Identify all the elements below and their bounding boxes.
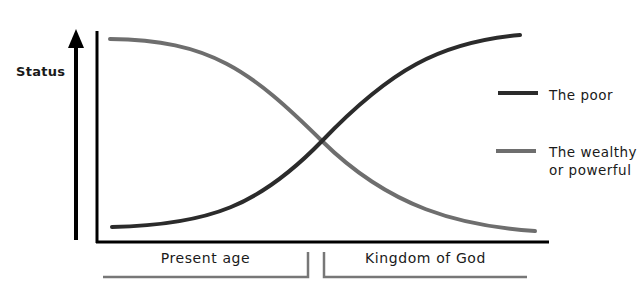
y-axis-label: Status	[16, 64, 65, 79]
period-label-present-age: Present age	[103, 250, 308, 266]
legend-label-wealthy: The wealthy or powerful	[549, 143, 639, 179]
status-arrow-head-icon	[68, 29, 84, 48]
period-label-kingdom-of-god: Kingdom of God	[324, 250, 527, 266]
legend-label-poor: The poor	[549, 86, 613, 104]
poor-curve	[112, 35, 520, 227]
wealthy-curve	[110, 39, 535, 231]
diagram-canvas	[0, 0, 643, 300]
